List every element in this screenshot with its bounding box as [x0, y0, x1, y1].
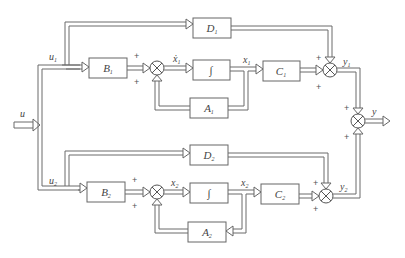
input-arrow	[14, 119, 40, 131]
y1-to-sumy-line	[337, 68, 363, 114]
block-diagram: u u1 B1 + + ẋ1 ∫	[0, 0, 405, 258]
u2-label: u2	[49, 175, 57, 187]
sumy2-plus-bottom: +	[313, 204, 318, 214]
x1-label: x1	[242, 54, 250, 66]
sumy-junction	[351, 114, 365, 128]
u1-label: u1	[49, 51, 57, 63]
sumy1-junction	[323, 63, 337, 77]
output-arrow	[365, 116, 390, 126]
sum2-junction	[150, 185, 164, 199]
b1-to-sum1-line	[127, 63, 150, 73]
xdot1-label: ẋ1	[172, 53, 180, 65]
output-label: y	[371, 106, 377, 117]
u1-to-b1-line	[62, 62, 89, 72]
sumy1-plus-top: +	[316, 53, 321, 63]
sum1-junction	[150, 61, 164, 75]
y1-label: y1	[342, 56, 350, 68]
sumy-plus-top: +	[344, 103, 349, 113]
y2-label: y2	[339, 181, 347, 193]
x2-label: x2	[240, 177, 248, 189]
sumy1-plus-bottom: +	[316, 82, 321, 92]
sum2-plus-bottom: +	[132, 201, 137, 211]
a2-to-sum2-line	[152, 199, 188, 233]
sumy-plus-bottom: +	[344, 132, 349, 142]
c1-to-sumy1-line	[300, 65, 323, 75]
input-split-line	[38, 65, 80, 190]
sum1-plus-top: +	[134, 51, 139, 61]
a1-to-sum1-line	[152, 75, 190, 110]
c2-to-sumy2-line	[299, 191, 319, 201]
x2-to-a2-line	[226, 194, 246, 236]
u2-to-b2-line	[78, 183, 87, 193]
b2-to-sum2-line	[125, 187, 150, 197]
x1-to-a1-line	[228, 71, 248, 110]
sumy2-junction	[319, 189, 333, 203]
sumy2-plus-top: +	[313, 178, 318, 188]
input-label: u	[20, 108, 25, 119]
xdot2-label: x2	[170, 177, 178, 189]
sum1-plus-bottom: +	[134, 77, 139, 87]
sum2-plus-top: +	[132, 175, 137, 185]
